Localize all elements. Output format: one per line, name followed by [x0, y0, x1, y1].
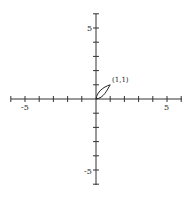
- coordinate-plane: -5 5 5 -5 (1,1): [0, 0, 193, 197]
- y-tick-label-5: 5: [87, 24, 92, 33]
- y-tick-label-neg5: -5: [84, 167, 92, 176]
- x-tick-label-5: 5: [164, 103, 169, 112]
- x-tick-label-neg5: -5: [21, 103, 29, 112]
- point-label: (1,1): [112, 76, 129, 84]
- lens-curve: [96, 85, 110, 99]
